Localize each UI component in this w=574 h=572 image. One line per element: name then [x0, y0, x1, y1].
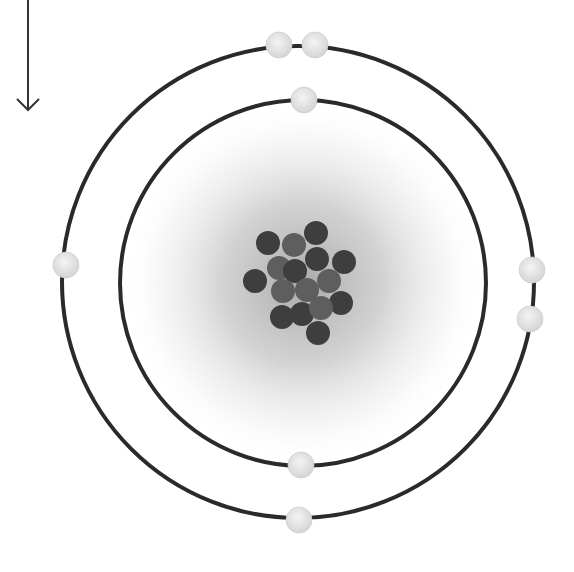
electron: [288, 452, 314, 478]
electron: [517, 306, 543, 332]
proton: [329, 291, 353, 315]
electron: [519, 257, 545, 283]
proton: [256, 231, 280, 255]
proton: [304, 221, 328, 245]
electron: [302, 32, 328, 58]
proton: [306, 321, 330, 345]
proton: [332, 250, 356, 274]
neutron: [271, 279, 295, 303]
electron: [291, 87, 317, 113]
electron: [286, 507, 312, 533]
atom-diagram: [0, 0, 574, 572]
down-arrow-icon: [17, 0, 39, 110]
neutron: [282, 233, 306, 257]
proton: [243, 269, 267, 293]
electron: [266, 32, 292, 58]
neutron: [309, 296, 333, 320]
electron: [53, 252, 79, 278]
proton: [305, 247, 329, 271]
neutron: [317, 269, 341, 293]
